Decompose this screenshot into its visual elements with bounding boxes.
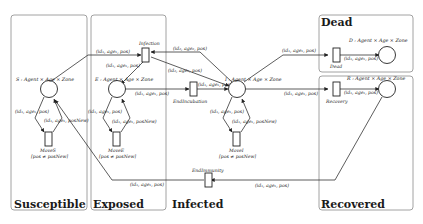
arc-i-to-infection [151, 52, 232, 82]
transition-movee [113, 132, 120, 146]
arc-s-to-moves [35, 97, 44, 132]
transition-endincubation [190, 82, 197, 96]
arc-label: (id₁, age₁, pos) [210, 109, 244, 115]
place-e [109, 81, 126, 98]
place-d [379, 47, 396, 64]
transition-endimmunity [205, 173, 212, 187]
arc-label: (id₁, age₁, pos) [344, 90, 378, 96]
arc-i-to-movei [223, 97, 232, 132]
arc-label: (id₁, age₁, posNew) [112, 119, 157, 125]
region-label-infected: Infected [172, 198, 224, 211]
arc-label: (id₁, age₁, pos) [282, 48, 316, 54]
arc-label: (id₁, age₁, pos) [106, 63, 140, 69]
transition-label-movee: MoveE [107, 148, 125, 153]
arc-movei-to-i [241, 99, 250, 132]
arc-label: (id₁, age₁, posNew) [44, 118, 89, 124]
arc-e-to-movee [103, 97, 112, 132]
region-label-dead: Dead [321, 16, 353, 29]
transition-guard-moves: [pos ≠ posNew] [31, 154, 68, 159]
region-label-recovered: Recovered [321, 198, 385, 211]
transition-label-endincubation: EndIncubation [172, 99, 207, 104]
region-label-exposed: Exposed [93, 198, 144, 211]
transition-label-recovery: Recovery [325, 99, 348, 105]
arc-label: (id₁, age₁, pos) [135, 91, 169, 97]
place-label-e: E : Agent × Age × Zone [94, 77, 153, 83]
place-s [41, 81, 58, 98]
region-label-susceptible: Susceptible [14, 198, 86, 211]
transition-dead [333, 48, 340, 62]
transition-movei [233, 132, 240, 146]
transition-infection [142, 48, 149, 62]
arc-movee-to-e [121, 99, 130, 132]
place-r [379, 81, 396, 98]
place-label-d: D : Agent × Age × Zone [348, 38, 408, 44]
arc-endimmunity-to-s [55, 100, 204, 180]
arc-label: (id₁, age₁, pos) [198, 82, 232, 88]
arc-label: (id₁, age₁, pos) [255, 183, 289, 189]
transition-label-infection: Infection [138, 41, 160, 46]
arc-label: (id₁, age₁, pos) [15, 109, 49, 115]
arc-label: (id₁, age₁, pos) [130, 182, 164, 188]
arc-label: (id₂, age₂, pos) [173, 46, 207, 52]
arc-label: (id₁, age₁, posNew) [232, 119, 277, 125]
arc-label: (id₁, age₁, pos) [344, 56, 378, 62]
transition-recovery [333, 82, 340, 96]
arc-label: (id₁, age₁, pos) [96, 49, 130, 55]
transition-label-dead: Dead [329, 64, 342, 69]
arc-label: (id₂, age₂, pos) [168, 68, 202, 74]
place-i [229, 81, 246, 98]
place-label-r: R : Agent × Age × Zone [346, 76, 405, 82]
arc-label: (id₁, age₁, pos) [284, 91, 318, 97]
transition-label-moves: MoveS [39, 148, 56, 153]
transition-moves [45, 132, 52, 146]
transition-label-movei: MoveI [228, 148, 244, 153]
petri-net-diagram: Susceptible Exposed Infected Dead Recove… [0, 0, 423, 224]
transition-guard-movee: [pos ≠ posNew] [99, 154, 136, 159]
transition-guard-movei: [pos ≠ posNew] [219, 154, 256, 159]
